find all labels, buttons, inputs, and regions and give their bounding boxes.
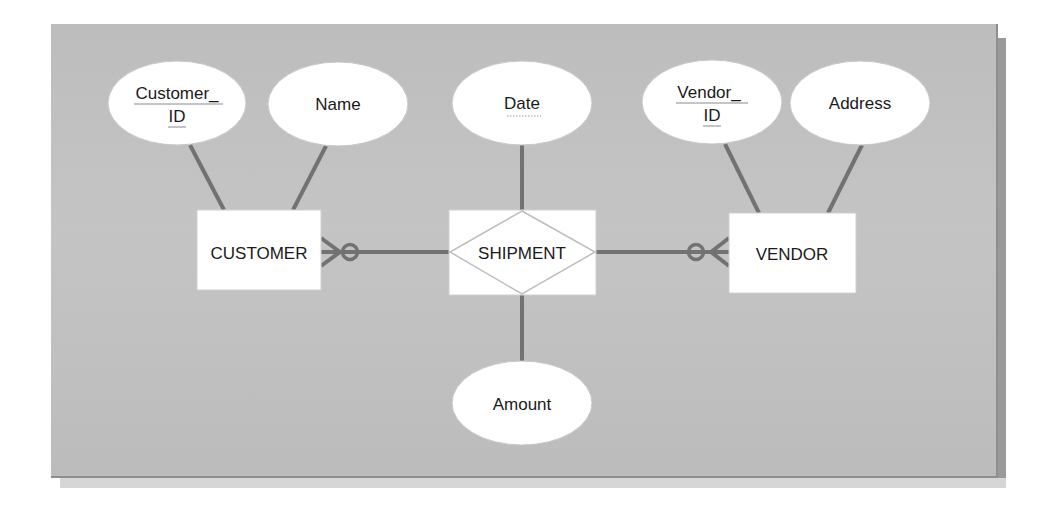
attribute-label-line1: Vendor_ xyxy=(677,83,741,102)
er-diagram: Customer_ ID Name Date Vendor_ ID Addres… xyxy=(0,0,1056,507)
crows-foot-lower xyxy=(321,252,340,266)
attribute-label: Address xyxy=(829,94,891,113)
attribute-address[interactable]: Address xyxy=(790,61,930,145)
attribute-customer-id[interactable]: Customer_ ID xyxy=(108,61,246,145)
attribute-date[interactable]: Date xyxy=(452,61,592,145)
attribute-label-line2: ID xyxy=(704,106,721,125)
connector-name xyxy=(293,146,326,210)
relationship-shipment[interactable]: SHIPMENT xyxy=(449,210,596,295)
attribute-label: Name xyxy=(315,95,360,114)
attribute-vendor-id[interactable]: Vendor_ ID xyxy=(642,60,782,144)
crows-foot-upper xyxy=(321,238,340,252)
attribute-label: Amount xyxy=(493,395,552,414)
relationship-line-customer-shipment xyxy=(321,238,449,266)
connector-address xyxy=(828,145,862,213)
crows-foot-lower xyxy=(711,252,729,266)
attribute-amount[interactable]: Amount xyxy=(452,361,592,445)
entity-customer[interactable]: CUSTOMER xyxy=(197,210,321,290)
relationship-line-shipment-vendor xyxy=(596,238,729,266)
attribute-name[interactable]: Name xyxy=(268,62,408,146)
connector-customer-id xyxy=(190,145,224,210)
relationship-label: SHIPMENT xyxy=(478,244,566,263)
entity-label: VENDOR xyxy=(756,245,829,264)
attribute-label: Date xyxy=(504,94,540,113)
attribute-label-line1: Customer_ xyxy=(135,84,219,103)
attribute-label-line2: ID xyxy=(169,107,186,126)
crows-foot-upper xyxy=(711,238,729,252)
entity-label: CUSTOMER xyxy=(211,244,308,263)
connector-vendor-id xyxy=(725,144,759,213)
entity-vendor[interactable]: VENDOR xyxy=(729,213,856,293)
